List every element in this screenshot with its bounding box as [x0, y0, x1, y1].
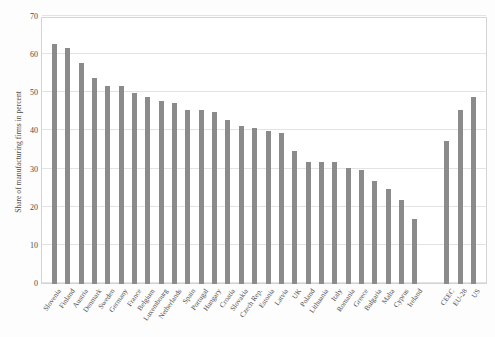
bar — [306, 162, 311, 284]
chart-figure: Share of manufacturing firms in percent … — [0, 0, 495, 337]
bar — [225, 120, 230, 284]
bar — [359, 170, 364, 284]
y-axis-tick-label: 40 — [2, 127, 38, 135]
bar-series — [41, 17, 487, 284]
bar — [386, 189, 391, 284]
bar — [239, 126, 244, 284]
bar — [332, 162, 337, 284]
bar — [266, 131, 271, 284]
bar — [212, 112, 217, 284]
bar — [399, 200, 404, 284]
bar — [471, 97, 476, 284]
bar — [372, 181, 377, 284]
bar — [185, 110, 190, 284]
bar — [79, 63, 84, 284]
x-axis-tick-labels: SloveniaFinlandAustriaDenmarkSwedenGerma… — [41, 286, 487, 337]
bar — [92, 78, 97, 284]
bar — [172, 103, 177, 284]
bar — [119, 86, 124, 284]
bar — [412, 219, 417, 284]
y-axis-tick-label: 20 — [2, 204, 38, 212]
bar — [279, 133, 284, 284]
bar — [105, 86, 110, 284]
bar — [145, 97, 150, 284]
x-axis-tick-label-text: US — [471, 288, 482, 300]
bar — [458, 110, 463, 284]
y-axis-tick-label: 0 — [2, 280, 38, 288]
y-axis-tick-label: 70 — [2, 13, 38, 21]
bar — [52, 44, 57, 284]
bar — [132, 93, 137, 284]
bar — [346, 168, 351, 284]
bar — [159, 101, 164, 284]
gridline — [42, 15, 486, 16]
y-axis-tick-label: 50 — [2, 89, 38, 97]
bar — [319, 162, 324, 284]
y-axis-tick-label: 10 — [2, 242, 38, 250]
bar — [199, 110, 204, 284]
bar — [292, 151, 297, 285]
y-axis-tick-label: 60 — [2, 51, 38, 59]
y-axis-tick-labels: 010203040506070 — [0, 17, 38, 284]
bar — [65, 48, 70, 284]
y-axis-tick-label: 30 — [2, 166, 38, 174]
bar — [444, 141, 449, 284]
bar — [252, 128, 257, 284]
